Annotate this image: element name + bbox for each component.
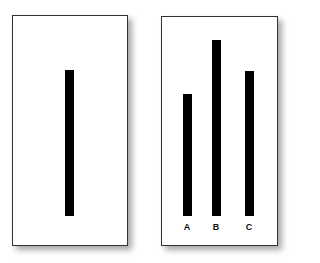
label-c: C <box>242 222 256 232</box>
comparison-line-b <box>212 40 221 216</box>
reference-line <box>65 70 74 216</box>
label-a: A <box>180 222 194 232</box>
comparison-line-a <box>183 94 192 216</box>
comparison-line-c <box>245 71 254 216</box>
label-b: B <box>209 222 223 232</box>
